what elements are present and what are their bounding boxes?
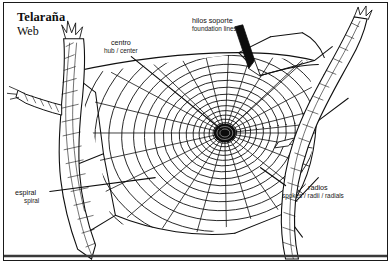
label-center-es: centro xyxy=(104,39,138,47)
label-spiral: espiral spiral xyxy=(15,189,39,204)
figure-title-en: Web xyxy=(17,25,65,38)
label-foundation-es: hilos soporte xyxy=(192,17,237,25)
label-radials-es: radios xyxy=(282,184,344,192)
label-center-en: hub / center xyxy=(104,47,138,54)
label-spiral-es: espiral xyxy=(15,189,39,197)
branch-right xyxy=(275,6,372,259)
figure-title-es: Telaraña xyxy=(17,10,65,24)
label-foundation-en: foundation lines xyxy=(192,25,237,32)
label-foundation: hilos soporte foundation lines xyxy=(192,17,237,32)
figure-canvas: Telaraña Web centro hub / center hilos s… xyxy=(0,0,392,265)
figure-title: Telaraña Web xyxy=(17,10,65,38)
label-radials: radios spokes / radii / radials xyxy=(282,184,344,199)
label-spiral-en: spiral xyxy=(15,197,39,204)
branch-left xyxy=(7,21,96,259)
label-center: centro hub / center xyxy=(104,39,138,54)
web-illustration xyxy=(4,3,387,260)
label-radials-en: spokes / radii / radials xyxy=(282,192,344,199)
figure-frame: Telaraña Web centro hub / center hilos s… xyxy=(3,2,388,261)
